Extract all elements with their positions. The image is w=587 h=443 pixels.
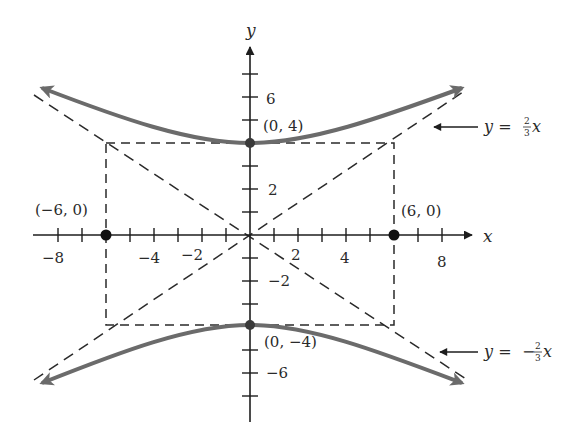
svg-text:3: 3 [535, 353, 541, 363]
point-neg6-0 [101, 230, 112, 241]
y-tick-label: −2 [268, 272, 290, 290]
x-tick-label: −2 [181, 246, 203, 264]
y-tick-label: 6 [266, 90, 276, 108]
point-label-0-4: (0, 4) [263, 117, 303, 135]
x-tick-label: 8 [437, 253, 447, 271]
vertex-point-lower [245, 320, 255, 330]
x-tick-label: −8 [42, 249, 64, 267]
vertex-point-upper [245, 138, 255, 148]
point-label-neg6-0: (−6, 0) [35, 201, 88, 219]
svg-text:−: − [522, 342, 535, 361]
svg-text:3: 3 [524, 128, 530, 138]
svg-text:y =: y = [483, 342, 512, 361]
hyperbola-figure: y x −8 −4 −2 2 4 8 6 2 −2 −6 (0, 4) (0, … [0, 0, 587, 443]
asymptote-label-negative: y = − 2 3 x [483, 341, 552, 363]
svg-text:x: x [543, 342, 552, 361]
svg-text:2: 2 [524, 116, 530, 126]
y-tick-label: −6 [266, 364, 288, 382]
x-tick-label: −4 [138, 249, 160, 267]
asymptote-label-positive: y = 2 3 x [483, 116, 541, 138]
x-tick-label: 4 [340, 249, 350, 267]
y-tick-label: 2 [268, 181, 278, 199]
hyperbola-lower-curve [42, 325, 462, 383]
point-label-6-0: (6, 0) [401, 202, 441, 220]
svg-text:y =: y = [483, 117, 512, 136]
x-axis-label: x [483, 226, 493, 246]
svg-text:x: x [532, 117, 541, 136]
point-6-0 [389, 230, 400, 241]
svg-text:2: 2 [535, 341, 541, 351]
point-label-0-neg4: (0, −4) [264, 333, 317, 351]
x-tick-label: 2 [291, 246, 301, 264]
y-axis-label: y [245, 20, 256, 40]
